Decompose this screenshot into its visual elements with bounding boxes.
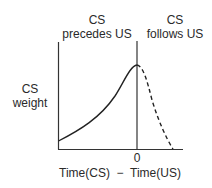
x-tick-zero: 0 (131, 151, 143, 165)
y-axis-label: CS weight (8, 82, 52, 110)
left-region-label: CS precedes US (62, 13, 132, 41)
precedes-curve (59, 65, 138, 141)
follows-curve (137, 65, 173, 149)
right-region-label: CS follows US (143, 13, 207, 41)
x-axis-label: Time(CS) − Time(US) (55, 166, 185, 180)
